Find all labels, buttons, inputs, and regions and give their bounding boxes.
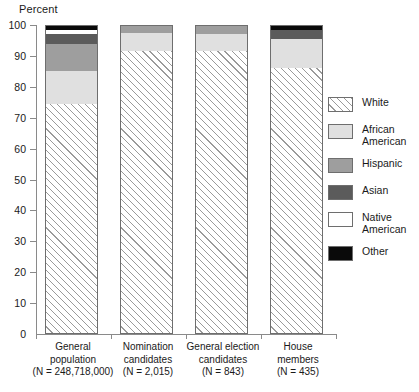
legend-item-african-american: African American: [328, 123, 406, 148]
y-tick-label-70: 70: [0, 113, 26, 123]
stacked-bar-chart: Percent 100 90 80 70 60 50 40 30 20 10 0: [0, 0, 419, 392]
x-tick-4: [336, 334, 337, 339]
legend-item-asian: Asian: [328, 184, 388, 200]
segment-asian: [270, 30, 323, 39]
legend-item-hispanic: Hispanic: [328, 157, 402, 173]
bar-house-members: [270, 25, 323, 334]
legend-label-white: White: [362, 96, 389, 108]
x-tick-1: [111, 334, 112, 339]
x-label-line2: members: [242, 354, 354, 367]
y-tick-label-40: 40: [0, 205, 26, 215]
legend-label-african-american: African American: [362, 123, 406, 148]
legend-label-other: Other: [362, 245, 388, 257]
x-tick-3: [261, 334, 262, 339]
y-tick-label-90: 90: [0, 51, 26, 61]
segment-white: [45, 104, 98, 334]
x-tick-0: [36, 334, 37, 339]
bar-nomination-candidates: [120, 25, 173, 334]
legend-swatch-white: [328, 97, 353, 112]
segment-asian: [45, 34, 98, 43]
legend-label-native-american: Native American: [362, 211, 406, 236]
legend-swatch-asian: [328, 185, 353, 200]
y-tick-label-10: 10: [0, 298, 26, 308]
y-tick-label-80: 80: [0, 82, 26, 92]
legend-item-white: White: [328, 96, 389, 112]
segment-african-american: [195, 34, 248, 51]
segment-hispanic: [45, 44, 98, 72]
y-tick-label-60: 60: [0, 144, 26, 154]
x-label-line1: House: [242, 341, 354, 354]
x-tick-2: [186, 334, 187, 339]
y-axis-title: Percent: [19, 3, 58, 15]
legend-label-hispanic: Hispanic: [362, 157, 402, 169]
y-tick-label-0: 0: [0, 329, 26, 339]
bar-general-election-candidates: [195, 25, 248, 334]
plot-area: [36, 25, 336, 334]
segment-hispanic: [120, 25, 173, 33]
legend-swatch-other: [328, 246, 353, 261]
segment-african-american: [270, 39, 323, 68]
x-label-n: (N = 435): [242, 366, 354, 379]
legend-label-asian: Asian: [362, 184, 388, 196]
bar-general-population: [45, 25, 98, 334]
segment-african-american: [45, 71, 98, 104]
x-category-label-house-members: House members (N = 435): [242, 341, 354, 379]
legend-swatch-hispanic: [328, 158, 353, 173]
segment-african-american: [120, 33, 173, 52]
segment-hispanic: [195, 25, 248, 34]
y-tick-label-100: 100: [0, 20, 26, 30]
y-tick-label-50: 50: [0, 175, 26, 185]
legend-swatch-african-american: [328, 124, 353, 139]
legend-swatch-native-american: [328, 212, 353, 227]
segment-white: [195, 51, 248, 334]
segment-white: [120, 51, 173, 334]
legend-item-other: Other: [328, 245, 388, 261]
legend-item-native-american: Native American: [328, 211, 406, 236]
y-tick-label-20: 20: [0, 267, 26, 277]
segment-white: [270, 68, 323, 334]
y-tick-label-30: 30: [0, 236, 26, 246]
